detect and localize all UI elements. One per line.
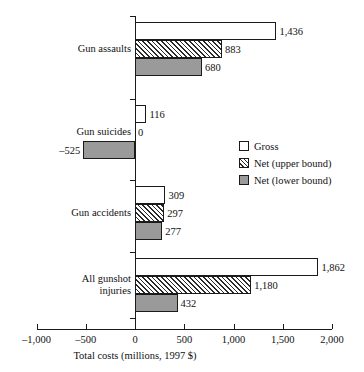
bar-value-label: 680 — [205, 62, 221, 73]
bar-value-label: 1,436 — [279, 26, 303, 37]
bar — [135, 294, 178, 312]
bar — [135, 276, 251, 294]
category-label: Gun accidents — [0, 207, 131, 219]
bar-value-label: 116 — [149, 109, 164, 120]
plot-area: 1,4368836801160–5253092972771,8621,18043… — [0, 0, 364, 372]
x-tick-label: 2,000 — [302, 334, 362, 345]
x-tick — [283, 324, 284, 329]
bar — [83, 141, 135, 159]
legend-item-net-lower-bound: Net (lower bound) — [239, 172, 332, 188]
legend-label-net-upper: Net (upper bound) — [254, 158, 332, 169]
bar-value-label: 1,180 — [254, 280, 278, 291]
bar-value-label: 883 — [225, 44, 241, 55]
category-label-line: Gun suicides — [0, 126, 131, 138]
category-label: Gun assaults — [0, 43, 131, 55]
category-label: All gunshotinjuries — [0, 273, 131, 297]
x-tick — [135, 324, 136, 329]
x-axis-line — [37, 329, 333, 330]
chart-legend: Gross Net (upper bound) Net (lower bound… — [239, 138, 332, 189]
legend-swatch-gross-icon — [239, 141, 249, 151]
bar-value-label: 0 — [138, 127, 143, 138]
bar — [135, 186, 165, 204]
x-tick — [37, 324, 38, 329]
legend-label-net-lower: Net (lower bound) — [254, 175, 332, 186]
bar-value-label: 1,862 — [321, 262, 345, 273]
x-tick — [86, 324, 87, 329]
x-tick — [234, 324, 235, 329]
category-label-line: injuries — [0, 285, 131, 297]
bar-value-label: 277 — [165, 226, 181, 237]
legend-swatch-net-lower-icon — [239, 175, 249, 185]
bar — [135, 22, 276, 40]
legend-swatch-net-upper-icon — [239, 158, 249, 168]
category-label-line: Gun accidents — [0, 207, 131, 219]
bar — [135, 204, 164, 222]
bar — [135, 58, 202, 76]
bar-value-label: –525 — [0, 145, 80, 156]
group-tick — [130, 99, 135, 100]
category-label-line: Gun assaults — [0, 43, 131, 55]
group-tick — [130, 180, 135, 181]
group-tick — [130, 16, 135, 17]
bar-value-label: 297 — [167, 208, 183, 219]
bar-value-label: 309 — [168, 190, 184, 201]
category-label-line: All gunshot — [0, 273, 131, 285]
category-label: Gun suicides — [0, 126, 131, 138]
legend-item-gross: Gross — [239, 138, 332, 154]
bar-value-label: 432 — [181, 298, 197, 309]
bar — [135, 40, 222, 58]
x-tick — [332, 324, 333, 329]
group-tick — [130, 318, 135, 319]
bar — [135, 258, 318, 276]
bar — [135, 222, 162, 240]
group-tick — [130, 252, 135, 253]
x-axis-title: Total costs (millions, 1997 $) — [15, 350, 255, 362]
bar — [135, 105, 146, 123]
legend-item-net-upper-bound: Net (upper bound) — [239, 155, 332, 171]
legend-label-gross: Gross — [254, 141, 279, 152]
gunshot-costs-bar-chart: 1,4368836801160–5253092972771,8621,18043… — [0, 0, 364, 372]
x-tick — [184, 324, 185, 329]
